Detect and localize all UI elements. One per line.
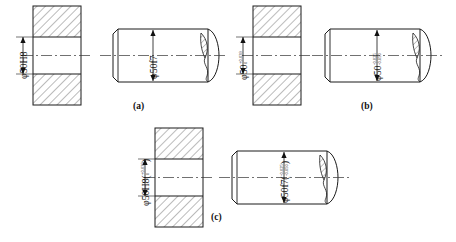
- dimension-value: 50f7(: [279, 177, 290, 198]
- dimension-text-shaft-b: φ50-0.025-0.050: [373, 53, 384, 81]
- diameter-symbol: φ: [140, 200, 151, 206]
- lower-deviation: -0.050: [378, 53, 383, 65]
- diameter-symbol: φ: [238, 74, 249, 80]
- dimension-text-shaft-a: φ50f7: [149, 56, 159, 79]
- panel-caption-a: (a): [133, 101, 144, 111]
- dimension-text-hole-b: φ50+0.0390: [239, 51, 250, 80]
- tolerance-stack: +0.0390: [141, 162, 151, 175]
- arrowhead: [20, 37, 25, 43]
- arrowhead: [150, 30, 155, 36]
- hatch-region: [253, 6, 301, 37]
- diameter-symbol: φ: [372, 75, 383, 81]
- break-line: [204, 58, 208, 82]
- diameter-symbol: φ: [148, 73, 159, 79]
- break-line: [416, 58, 420, 82]
- hatch-region: [33, 74, 81, 105]
- dimension-value: 50: [372, 66, 383, 76]
- lower-deviation: 0: [244, 51, 249, 64]
- dimension-text-shaft-c: φ50f7(-0.025-0.050): [280, 161, 291, 203]
- dimension-text-hole-a: φ50H8: [19, 52, 29, 79]
- tolerance-stack: +0.0390: [239, 51, 249, 64]
- dimension-value: 50f7: [148, 56, 159, 74]
- lower-deviation: 0: [146, 162, 151, 175]
- arrowhead: [240, 37, 245, 43]
- panel-caption-c: (c): [211, 212, 222, 222]
- drawing-sheet: φ50H8 φ50f7 φ50+0.0390 φ50-0.025-0.050 φ…: [0, 0, 456, 242]
- dimension-text-hole-c: φ50H8(+0.0390): [141, 159, 152, 206]
- break-line: [323, 180, 327, 204]
- diameter-symbol: φ: [279, 197, 290, 203]
- revolved-section-hatch: [201, 33, 208, 58]
- revolved-section-hatch: [320, 155, 327, 180]
- hatch-region: [155, 128, 203, 159]
- panel-caption-b: (b): [361, 101, 373, 111]
- tolerance-stack: -0.025-0.050: [280, 164, 290, 176]
- tolerance-stack: -0.025-0.050: [373, 53, 383, 65]
- hatch-region: [33, 6, 81, 37]
- arrowhead: [281, 152, 286, 158]
- dimension-value: 50H8: [18, 52, 29, 73]
- technical-drawing-canvas: [0, 0, 456, 242]
- lower-deviation: -0.050: [285, 164, 290, 176]
- arrowhead: [374, 30, 379, 36]
- dimension-value: 50: [238, 65, 249, 75]
- panel-a-shaft-view: [100, 29, 228, 82]
- revolved-section-hatch: [413, 33, 420, 58]
- hatch-region: [253, 74, 301, 105]
- dimension-value: 50H8(: [140, 176, 151, 201]
- hatch-region: [155, 196, 203, 227]
- diameter-symbol: φ: [18, 73, 29, 79]
